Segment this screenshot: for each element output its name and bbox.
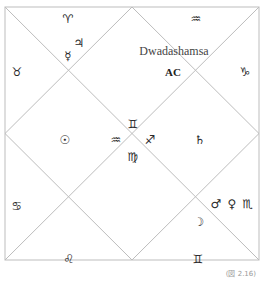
sun-icon: ☉ [60, 134, 71, 146]
saturn-icon: ♄ [195, 134, 206, 146]
gemini-bottom-icon: ♊ [193, 253, 204, 265]
ascendant-label: AC [165, 66, 181, 78]
capricorn-icon: ♑ [240, 66, 251, 78]
mars-icon: ♂ [211, 198, 222, 210]
mercury-icon: ☿ [64, 50, 71, 62]
aries-icon: ♈ [63, 13, 74, 25]
aquarius-top-icon: ♒ [191, 13, 202, 25]
north-indian-chart-frame [0, 0, 264, 282]
jupiter-icon: ♃ [74, 37, 85, 49]
scorpio-icon: ♏ [243, 198, 254, 210]
venus-icon: ♀ [228, 198, 237, 210]
aquarius-mid-icon: ♒ [111, 134, 122, 146]
sagittarius-icon: ♐ [145, 134, 156, 146]
virgo-icon: ♍ [128, 151, 139, 163]
chart-title: Dwadashamsa [139, 44, 208, 59]
leo-icon: ♌ [64, 253, 75, 265]
moon-icon: ☽ [194, 216, 205, 228]
figure-caption: (図 2.16) [226, 268, 256, 278]
gemini-mid-icon: ♊ [128, 118, 139, 130]
cancer-icon: ♋ [12, 200, 23, 212]
taurus-icon: ♉ [12, 66, 23, 78]
